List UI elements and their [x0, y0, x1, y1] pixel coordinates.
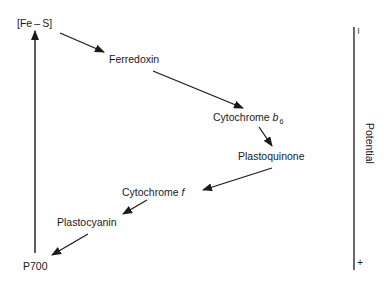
cytochrome-f-name: Cytochrome [122, 186, 182, 198]
arrow-cytf-to-plastocyanin [123, 200, 147, 214]
potential-axis-positive-sign: + [357, 256, 363, 268]
cytochrome-b6-name: Cytochrome [213, 111, 273, 123]
node-plastoquinone: Plastoquinone [238, 150, 305, 162]
arrow-plastoquinone-to-cytf [203, 168, 272, 190]
arrow-fes-to-ferredoxin [60, 33, 104, 52]
potential-axis-label: Potential [364, 123, 376, 164]
potential-axis-negative-sign: – [354, 28, 366, 34]
arrow-ferredoxin-to-cytb6 [153, 71, 243, 108]
node-ferredoxin: Ferredoxin [109, 53, 159, 65]
arrow-cytb6-to-plastoquinone [259, 127, 272, 146]
node-p700: P700 [23, 260, 48, 272]
cytochrome-f-letter: f [182, 186, 186, 198]
cytochrome-b6-subscript: 6 [279, 118, 283, 125]
electron-transport-diagram: [Fe – S] Ferredoxin Cytochrome b6 Plasto… [0, 0, 390, 283]
cytochrome-b6-letter: b [273, 111, 279, 123]
node-plastocyanin: Plastocyanin [57, 216, 117, 228]
node-cytochrome-f: Cytochrome f [122, 186, 186, 198]
node-fe-s: [Fe – S] [17, 17, 52, 29]
arrow-plastocyanin-to-p700 [52, 234, 88, 255]
node-cytochrome-b6: Cytochrome b6 [213, 111, 283, 125]
